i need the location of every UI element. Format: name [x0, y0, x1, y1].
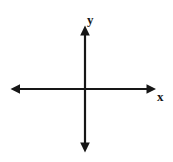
x-axis-label: x [157, 90, 164, 103]
axes-diagram-canvas: y x [0, 0, 173, 162]
y-axis-label: y [87, 13, 94, 26]
